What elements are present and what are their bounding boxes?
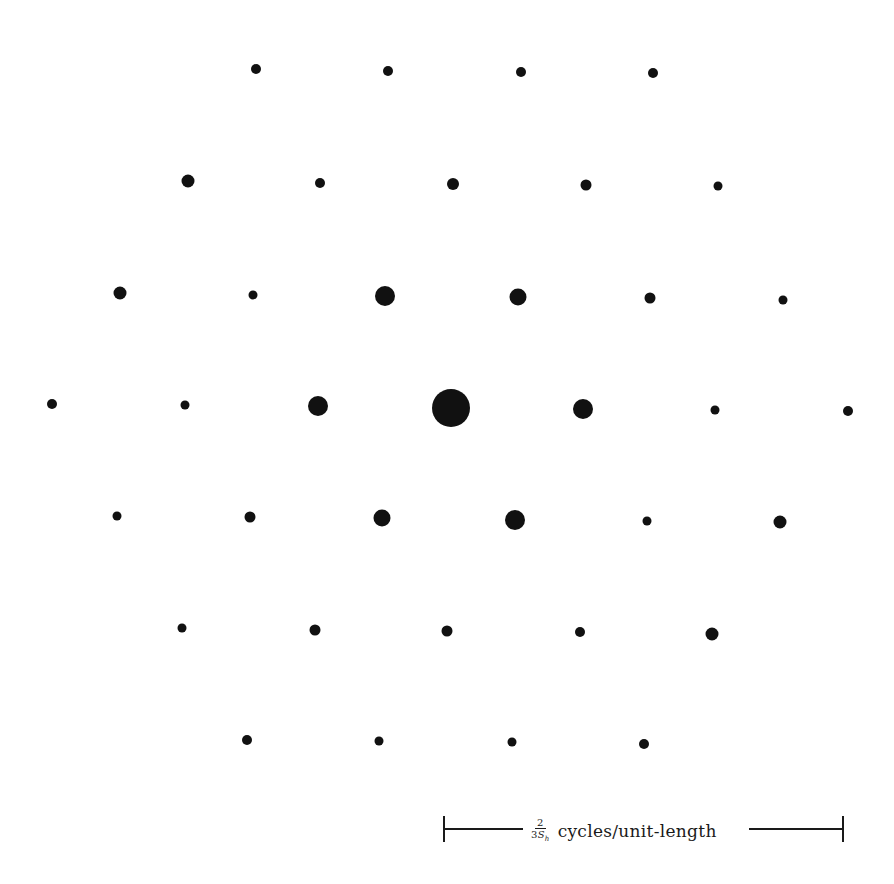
lattice-spot xyxy=(242,735,252,745)
lattice-spot xyxy=(639,739,649,749)
lattice-spot xyxy=(774,516,787,529)
lattice-spot xyxy=(510,289,527,306)
lattice-spot xyxy=(178,624,187,633)
lattice-spot xyxy=(843,406,853,416)
lattice-spot xyxy=(447,178,459,190)
lattice-spot xyxy=(575,627,585,637)
lattice-spot xyxy=(375,286,395,306)
scale-bar-left-line xyxy=(443,828,523,830)
lattice-spot xyxy=(643,517,652,526)
scale-bar: 2 3Sh cycles/unit-length xyxy=(443,815,844,843)
scale-bar-right-tick xyxy=(842,816,844,842)
lattice-spot xyxy=(315,178,325,188)
lattice-spot xyxy=(442,626,453,637)
lattice-spot xyxy=(573,399,593,419)
fraction-numerator: 2 xyxy=(535,817,546,829)
lattice-spot xyxy=(113,512,122,521)
lattice-spot xyxy=(711,406,720,415)
lattice-spot xyxy=(181,401,190,410)
lattice-spot xyxy=(581,180,592,191)
lattice-spot xyxy=(374,510,391,527)
lattice-spot xyxy=(310,625,321,636)
scale-fraction: 2 3Sh xyxy=(531,817,550,845)
hexagonal-spot-lattice xyxy=(0,0,894,884)
lattice-spot xyxy=(648,68,658,78)
lattice-spot xyxy=(516,67,526,77)
lattice-spot xyxy=(714,182,723,191)
fraction-denominator: 3Sh xyxy=(531,829,550,845)
lattice-spot xyxy=(245,512,256,523)
scale-unit-text: cycles/unit-length xyxy=(558,821,717,841)
denominator-prefix: 3 xyxy=(531,829,538,840)
lattice-spot xyxy=(308,396,328,416)
lattice-spot xyxy=(182,175,195,188)
lattice-spot xyxy=(706,628,719,641)
denominator-subscript: h xyxy=(545,835,550,843)
lattice-spot xyxy=(251,64,261,74)
lattice-spot xyxy=(645,293,656,304)
denominator-symbol: S xyxy=(538,829,545,840)
scale-bar-right-line xyxy=(749,828,844,830)
lattice-spot xyxy=(375,737,384,746)
lattice-spot xyxy=(505,510,525,530)
lattice-spot xyxy=(47,399,57,409)
lattice-spot xyxy=(432,389,470,427)
lattice-spot xyxy=(249,291,258,300)
scale-bar-label: 2 3Sh cycles/unit-length xyxy=(531,817,717,845)
lattice-spot xyxy=(508,738,517,747)
lattice-spot xyxy=(383,66,393,76)
lattice-spot xyxy=(114,287,127,300)
lattice-spot xyxy=(779,296,788,305)
